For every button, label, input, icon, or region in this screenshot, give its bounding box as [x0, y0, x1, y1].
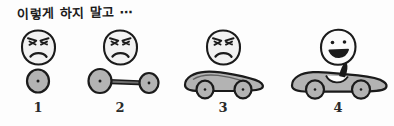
illustration-canvas: 이렇게 하지 말고 ⋯ 1 — [0, 0, 394, 126]
step-number-2: 2 — [60, 100, 180, 115]
step-number-3: 3 — [163, 100, 283, 115]
step-number-4: 4 — [278, 100, 394, 115]
two-wheel-axle-graphic — [60, 62, 180, 100]
step-column-2: 2 — [60, 0, 180, 126]
step-column-3: 3 — [163, 0, 283, 126]
convertible-with-driver-graphic — [278, 62, 394, 100]
car-body-graphic — [163, 62, 283, 100]
step-column-4: 4 — [278, 0, 394, 126]
